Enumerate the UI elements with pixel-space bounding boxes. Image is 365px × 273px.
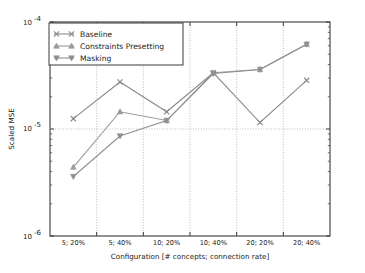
y-axis-title: Scaled MSE	[7, 108, 16, 150]
y-tick-label-1e-4-exponent: -4	[34, 15, 42, 23]
x-tick-label-4: 20; 20%	[246, 239, 273, 247]
legend-label-2: Masking	[80, 54, 111, 63]
x-tick-label-1: 5; 40%	[108, 239, 131, 247]
y-tick-label-1e-4-mantissa: 10	[23, 19, 32, 27]
legend: BaselineConstraints PresettingMasking	[49, 23, 183, 65]
y-tick-label-1e-6-exponent: -6	[34, 229, 42, 237]
y-tick-label-1e-5-exponent: -5	[34, 121, 41, 129]
scaled-mse-line-chart: 10 -4 10 -5 10 -6 Scaled MSE 5; 20%5; 40…	[0, 0, 365, 273]
x-tick-label-5: 20; 40%	[293, 239, 320, 247]
x-tick-label-3: 10; 40%	[200, 239, 227, 247]
x-tick-label-0: 5; 20%	[62, 239, 85, 247]
y-tick-label-1e-5-mantissa: 10	[23, 125, 32, 133]
legend-label-0: Baseline	[80, 30, 113, 39]
x-tick-label-2: 10; 20%	[153, 239, 180, 247]
y-tick-label-1e-6-mantissa: 10	[23, 233, 32, 241]
x-axis-title: Configuration [# concepts; connection ra…	[111, 252, 270, 261]
legend-label-1: Constraints Presetting	[80, 42, 164, 51]
